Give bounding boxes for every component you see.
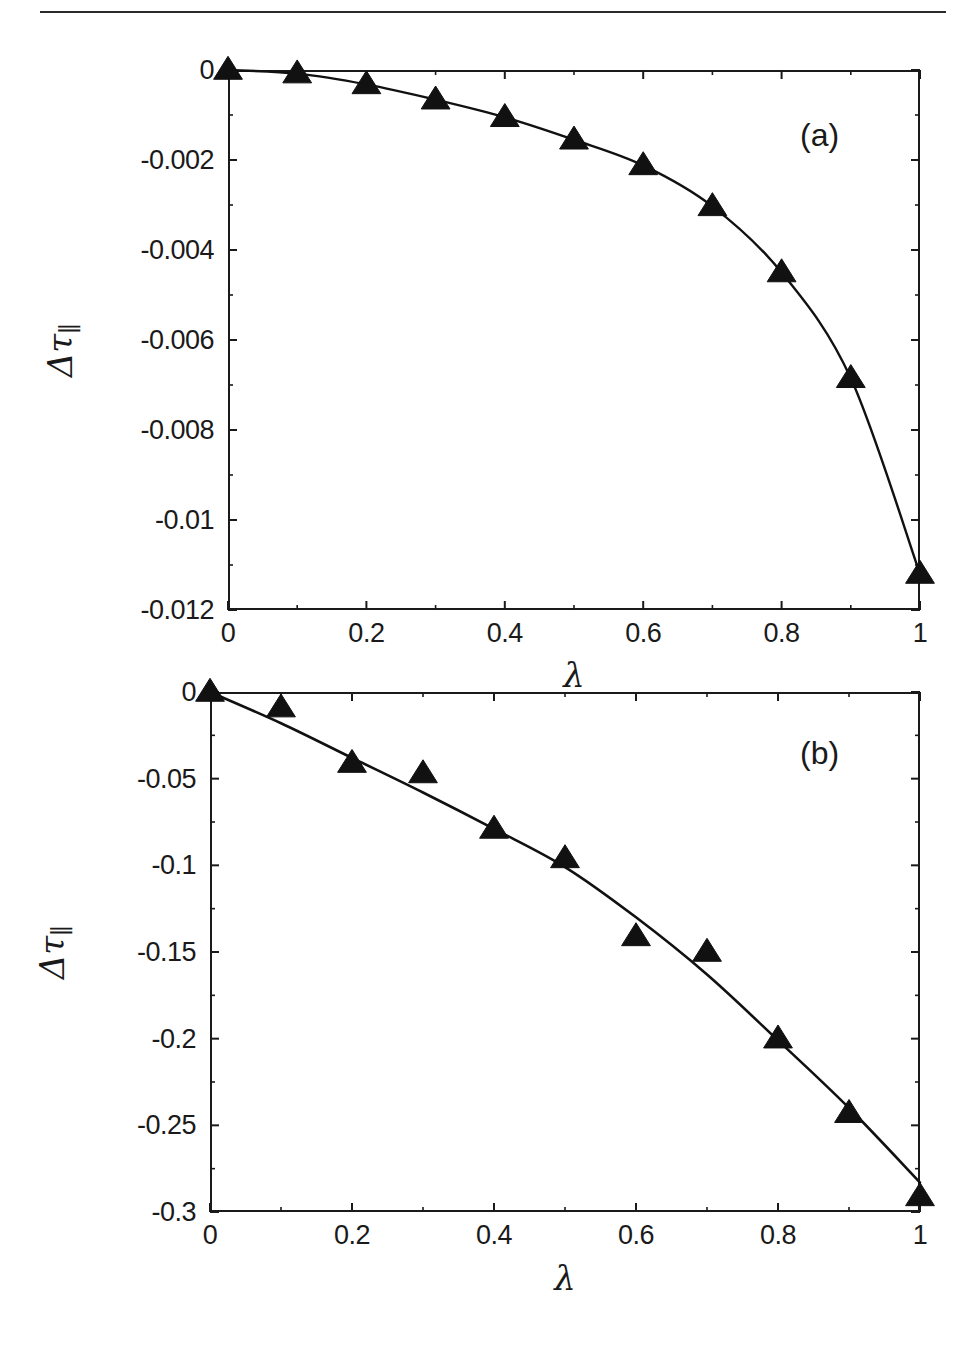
xtick-label-b-2: 0.4 <box>476 1220 512 1251</box>
x-axis-title-b: λ <box>554 1258 576 1298</box>
data-point-marker <box>480 815 509 838</box>
xtick-label-a-2: 0.4 <box>487 618 523 649</box>
ytick-label-b-2: -0.1 <box>8 850 196 881</box>
y-axis-title-a-subscript: ∥ <box>56 323 84 334</box>
y-axis-title-a-delta: Δ <box>40 353 80 378</box>
ytick-label-a-5: -0.01 <box>14 505 214 536</box>
data-point-marker <box>764 1025 793 1048</box>
ytick-label-a-2: -0.004 <box>14 235 214 266</box>
ytick-label-b-0: 0 <box>8 677 196 708</box>
xtick-label-a-5: 1 <box>913 618 928 649</box>
xtick-label-a-1: 0.2 <box>348 618 384 649</box>
y-axis-title-b-subscript: ∥ <box>48 925 76 936</box>
ytick-label-a-1: -0.002 <box>14 145 214 176</box>
data-point-marker <box>409 760 438 783</box>
ytick-label-b-6: -0.3 <box>8 1197 196 1228</box>
data-point-marker <box>835 1100 864 1123</box>
y-axis-title-b: Δτ∥ <box>32 925 76 979</box>
panel-tag-a: (a) <box>800 117 839 154</box>
ytick-label-b-4: -0.2 <box>8 1023 196 1054</box>
xtick-label-a-4: 0.8 <box>764 618 800 649</box>
xtick-label-b-4: 0.8 <box>760 1220 796 1251</box>
ytick-label-a-6: -0.012 <box>14 595 214 626</box>
y-axis-title-a: Δτ∥ <box>40 323 84 377</box>
data-point-marker <box>560 126 589 149</box>
ytick-label-a-4: -0.008 <box>14 415 214 446</box>
data-point-marker <box>267 694 296 717</box>
xtick-label-b-3: 0.6 <box>618 1220 654 1251</box>
xtick-label-b-0: 0 <box>203 1220 218 1251</box>
data-point-marker <box>629 152 658 175</box>
xtick-label-a-0: 0 <box>221 618 236 649</box>
data-point-marker <box>196 678 225 701</box>
xtick-label-b-5: 1 <box>913 1220 928 1251</box>
data-point-marker <box>214 56 243 79</box>
data-point-marker <box>906 560 935 583</box>
data-point-marker <box>283 60 312 83</box>
xtick-label-b-1: 0.2 <box>334 1220 370 1251</box>
data-point-marker <box>836 365 865 388</box>
y-axis-title-b-tau: τ <box>32 936 72 955</box>
data-point-marker <box>551 845 580 868</box>
xtick-label-a-3: 0.6 <box>625 618 661 649</box>
chart-panel-b: 0 -0.05 -0.1 -0.15 -0.2 -0.25 -0.3 0 0.2… <box>0 680 978 1358</box>
data-point-marker <box>698 193 727 216</box>
panel-tag-b: (b) <box>800 735 839 772</box>
data-point-marker <box>906 1183 935 1206</box>
chart-panel-a: 0 -0.002 -0.004 -0.006 -0.008 -0.01 -0.0… <box>0 0 978 680</box>
ytick-label-a-0: 0 <box>14 55 214 86</box>
data-point-marker <box>693 938 722 961</box>
y-axis-title-b-delta: Δ <box>32 955 72 980</box>
y-axis-title-a-tau: τ <box>40 334 80 353</box>
ytick-label-b-5: -0.25 <box>8 1110 196 1141</box>
ytick-label-b-1: -0.05 <box>8 763 196 794</box>
